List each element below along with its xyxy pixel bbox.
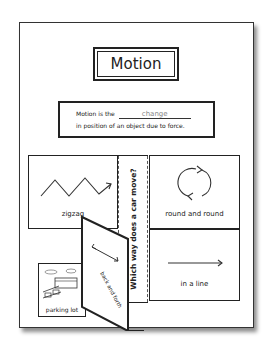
parking-lot-picture-card: parking lot [38,263,86,317]
definition-suffix: in position of an object due to force. [76,122,185,129]
definition-line-1: Motion is the change [76,110,191,119]
label-in-a-line: in a line [150,280,239,288]
parking-lot-picture [39,266,85,304]
zigzag-arrow-icon [29,164,117,214]
definition-prefix: Motion is the [76,110,115,117]
fold-line-right [147,156,148,302]
title-box: Motion [93,47,179,81]
straight-arrow-icon [150,245,239,285]
label-parking-lot: parking lot [39,306,85,313]
label-round-and-round: round and round [150,210,239,218]
circular-arrows-icon [150,160,239,210]
worksheet-page: Motion Motion is the change in position … [19,22,254,328]
cell-in-a-line: in a line [149,229,240,301]
back-and-forth-flap[interactable]: back and forth [80,215,146,331]
definition-box: Motion is the change in position of an o… [58,101,215,138]
cell-round-and-round: round and round [149,155,240,229]
page-title: Motion [97,51,175,77]
definition-answer-blank: change [119,111,191,119]
